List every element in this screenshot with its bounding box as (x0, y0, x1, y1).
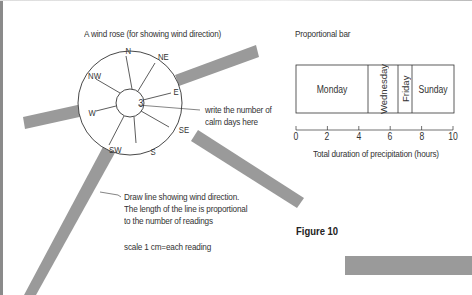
segment-label-wednesday: Wednesday (368, 65, 398, 113)
calm-note-line-1: write the number of (205, 104, 272, 116)
wind-bar-east (175, 45, 259, 86)
decorative-gray-bar (345, 256, 472, 275)
draw-note-line-1: Draw line showing wind direction. (124, 191, 239, 203)
proportional-bar-title: Proportional bar (295, 28, 350, 40)
wind-bar-west (23, 104, 84, 129)
tick-label: 4 (353, 131, 365, 142)
direction-label-e: E (173, 87, 178, 97)
wind-rose-title: A wind rose (for showing wind direction) (84, 28, 221, 40)
tick-label: 0 (290, 131, 302, 142)
scale-note: scale 1 cm=each reading (124, 241, 211, 253)
direction-label-sw: SW (109, 145, 121, 155)
draw-note-leader (100, 192, 121, 197)
tick-label: 2 (321, 131, 333, 142)
direction-label-w: W (89, 108, 96, 118)
duration-axis (296, 126, 453, 130)
direction-label-nw: NW (88, 71, 101, 81)
direction-label-se: SE (179, 125, 189, 135)
calm-note-line-2: calm days here (205, 116, 258, 128)
tick-label: 6 (384, 131, 396, 142)
segment-label-monday: Monday (301, 65, 363, 113)
direction-label-s: S (150, 147, 155, 157)
wind-bar-southwest (24, 145, 116, 295)
calm-days-count: 3 (138, 98, 143, 109)
segment-label-friday: Friday (398, 65, 412, 113)
segment-label-sunday: Sunday (415, 65, 451, 113)
direction-label-ne: NE (158, 52, 169, 62)
draw-note-line-2: The length of the line is proportional (124, 203, 247, 215)
tick-label: 8 (416, 131, 428, 142)
draw-note-line-3: to the number of readings (124, 215, 213, 227)
direction-label-n: N (125, 46, 131, 56)
axis-label: Total duration of precipitation (hours) (313, 148, 439, 160)
figure-caption: Figure 10 (296, 225, 338, 237)
tick-label: 10 (447, 131, 459, 142)
